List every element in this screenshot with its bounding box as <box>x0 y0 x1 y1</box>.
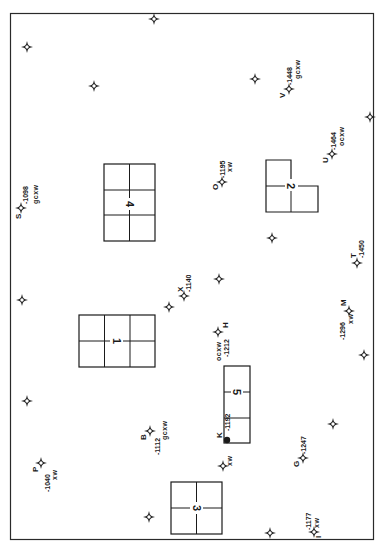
point-h-code: ocxw <box>215 341 222 361</box>
point-v[interactable]: V -1448 gcxw <box>278 59 302 98</box>
unit-2[interactable]: 2 <box>266 160 318 212</box>
dot-marker-icon <box>224 437 230 443</box>
point-v-value: -1448 <box>286 67 293 85</box>
star-marker-icon <box>21 41 33 53</box>
point-x-letter: X <box>176 286 185 292</box>
point-h[interactable]: H ocxw -1212 <box>212 322 230 361</box>
star-marker-icon <box>266 232 278 244</box>
point-g[interactable]: G -1247 <box>292 436 309 467</box>
unlabeled-markers <box>16 13 376 539</box>
point-p[interactable]: P -1040 xw <box>31 457 58 492</box>
point-h-letter: H <box>221 322 230 328</box>
unit-2-label: 2 <box>285 183 297 189</box>
point-m-letter: M <box>339 299 348 306</box>
star-marker-icon <box>358 349 370 361</box>
point-u-value: -1464 <box>330 132 337 150</box>
point-p-letter: P <box>31 466 40 472</box>
point-p-code: xw <box>51 470 58 480</box>
site-map: 4 2 1 5 3 <box>0 0 384 552</box>
point-u[interactable]: U -1464 ocxw <box>321 126 345 163</box>
star-marker-icon <box>21 395 33 407</box>
unit-3-label: 3 <box>191 505 203 511</box>
point-t-value: -1450 <box>358 240 365 258</box>
point-s-code: gcxw <box>32 184 40 204</box>
point-t-letter: T <box>349 253 358 258</box>
star-marker-icon <box>264 527 276 539</box>
point-u-letter: U <box>321 157 330 163</box>
point-s-letter: S <box>14 213 23 219</box>
point-g-value: -1247 <box>300 436 307 454</box>
point-i-letter: I <box>314 536 323 538</box>
point-u-code: ocxw <box>338 126 345 146</box>
star-marker-icon <box>364 111 376 123</box>
point-b-code: gcxw <box>161 420 169 440</box>
point-i[interactable]: -1177 xw I <box>305 512 323 538</box>
point-g-letter: G <box>292 461 301 467</box>
point-v-letter: V <box>278 92 287 98</box>
point-xw-unlettered[interactable]: xw <box>217 456 233 472</box>
star-marker-icon <box>213 273 225 285</box>
star-marker-icon <box>327 418 339 430</box>
unit-5-label: 5 <box>231 389 243 395</box>
point-v-code: gcxw <box>294 59 302 79</box>
point-x-value: -1140 <box>185 274 192 292</box>
point-o[interactable]: O -1195 xw <box>211 160 233 190</box>
star-marker-icon <box>88 80 100 92</box>
point-p-value: -1040 <box>44 474 51 492</box>
unit-4[interactable]: 4 <box>104 164 155 241</box>
point-k[interactable]: K -1192 <box>215 413 231 443</box>
point-o-value: -1195 <box>219 160 226 178</box>
point-t[interactable]: T -1450 <box>349 240 365 269</box>
point-k-letter: K <box>215 432 224 438</box>
point-xw-code: xw <box>226 456 233 466</box>
point-o-code: xw <box>226 162 233 172</box>
unit-1-label: 1 <box>111 338 123 344</box>
point-o-letter: O <box>211 184 220 190</box>
star-marker-icon <box>143 511 155 523</box>
unit-3[interactable]: 3 <box>171 482 222 534</box>
point-b-value: -1112 <box>154 438 161 455</box>
point-b[interactable]: B -1112 gcxw <box>139 420 169 455</box>
star-marker-icon <box>16 294 28 306</box>
point-i-value: -1177 <box>305 512 312 530</box>
point-i-code: xw <box>313 518 320 528</box>
unit-4-label: 4 <box>124 201 136 208</box>
point-h-value: -1212 <box>223 339 230 357</box>
star-marker-icon <box>163 301 175 313</box>
unit-1[interactable]: 1 <box>79 315 155 367</box>
point-m[interactable]: M -1296 xw <box>339 299 355 340</box>
point-m-code: xw <box>347 314 354 324</box>
point-x[interactable]: X -1140 <box>176 274 192 302</box>
point-k-value: -1192 <box>224 413 231 431</box>
star-marker-icon <box>148 13 160 25</box>
point-s-value: -1098 <box>22 186 29 204</box>
point-b-letter: B <box>139 434 148 440</box>
star-marker-icon <box>249 73 261 85</box>
point-s[interactable]: S -1098 gcxw <box>14 184 40 219</box>
point-m-value: -1296 <box>339 322 346 340</box>
map-border <box>11 14 374 540</box>
